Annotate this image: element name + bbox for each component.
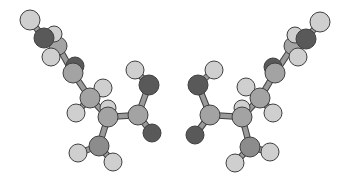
ball-and-stick-models	[0, 0, 348, 183]
nitrogen-atom	[240, 137, 260, 157]
hydrogen-atom	[289, 48, 307, 66]
hydrogen-atom	[261, 143, 279, 161]
oxygen-atom	[143, 124, 161, 142]
molecule-figure	[0, 0, 348, 183]
hydrogen-atom	[42, 48, 60, 66]
oxygen-atom	[139, 75, 159, 95]
hydrogen-atom	[104, 153, 122, 171]
nitrogen-atom	[89, 136, 109, 156]
carbon-atom	[80, 88, 100, 108]
carbon-atom	[200, 105, 220, 125]
carbon-atom	[128, 105, 148, 125]
hydrogen-atom	[67, 104, 85, 122]
oxygen-atom	[296, 29, 316, 49]
oxygen-atom	[188, 75, 208, 95]
hydrogen-atom	[264, 104, 282, 122]
oxygen-atom	[34, 28, 54, 48]
hydrogen-atom	[126, 61, 144, 79]
hydrogen-atom	[20, 10, 40, 30]
hydrogen-atom	[69, 144, 87, 162]
left-enantiomer-model	[20, 10, 161, 171]
hydrogen-atom	[226, 154, 244, 172]
carbon-atom	[98, 107, 118, 127]
oxygen-atom	[186, 126, 204, 144]
carbon-atom	[250, 88, 270, 108]
carbon-atom	[232, 107, 252, 127]
carbon-atom	[63, 63, 83, 83]
hydrogen-atom	[205, 61, 223, 79]
carbon-atom	[265, 63, 285, 83]
hydrogen-atom	[310, 12, 330, 32]
right-enantiomer-model	[186, 12, 330, 172]
